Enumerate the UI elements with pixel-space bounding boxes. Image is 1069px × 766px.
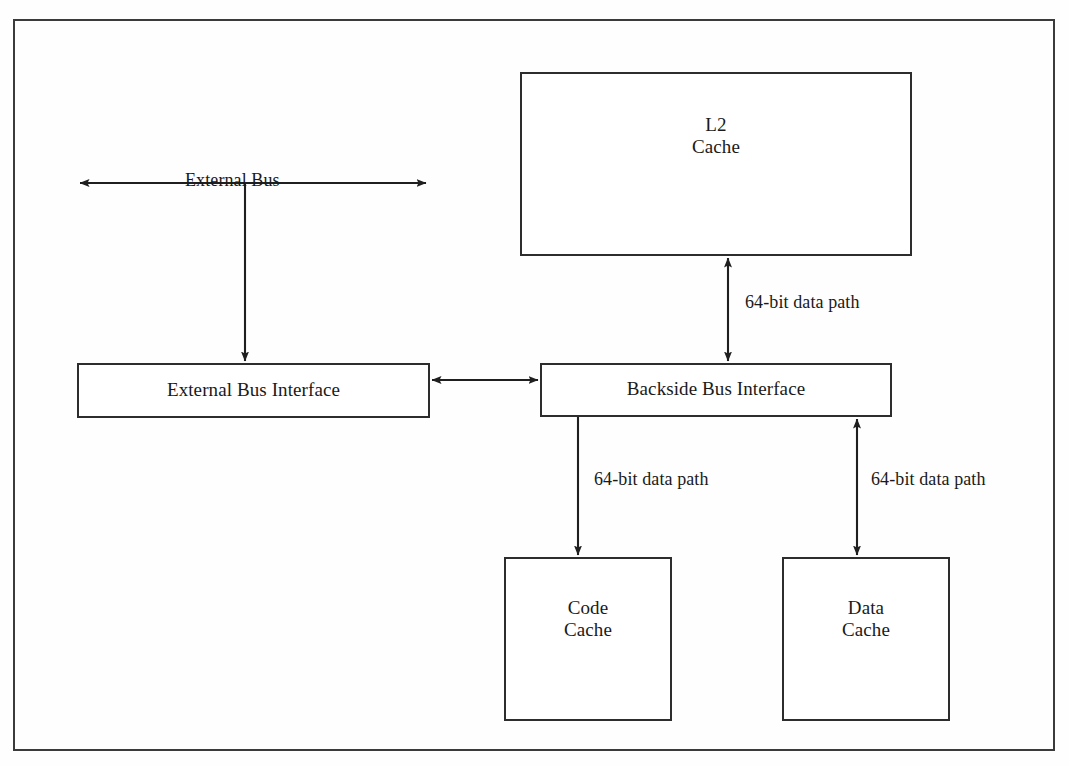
edge-label-bbi-to-l2: 64-bit data path <box>745 292 860 313</box>
node-backside-bus-interface-label: Backside Bus Interface <box>542 378 890 400</box>
node-data-cache-label: Data Cache <box>784 597 948 641</box>
node-code-cache-label: Code Cache <box>506 597 670 641</box>
scan-artifact-clipped-text <box>250 0 710 11</box>
node-external-bus-interface[interactable]: External Bus Interface <box>77 363 430 418</box>
node-code-cache[interactable]: Code Cache <box>504 557 672 721</box>
node-external-bus-interface-label: External Bus Interface <box>79 379 428 401</box>
node-backside-bus-interface[interactable]: Backside Bus Interface <box>540 363 892 417</box>
diagram-canvas: L2 Cache External Bus Interface Backside… <box>0 0 1069 766</box>
node-l2-cache[interactable]: L2 Cache <box>520 72 912 256</box>
node-data-cache[interactable]: Data Cache <box>782 557 950 721</box>
node-l2-cache-label: L2 Cache <box>522 114 910 158</box>
edge-label-external-bus: External Bus <box>185 170 280 191</box>
edge-label-bbi-to-code-cache: 64-bit data path <box>594 469 709 490</box>
edge-label-bbi-to-data-cache: 64-bit data path <box>871 469 986 490</box>
